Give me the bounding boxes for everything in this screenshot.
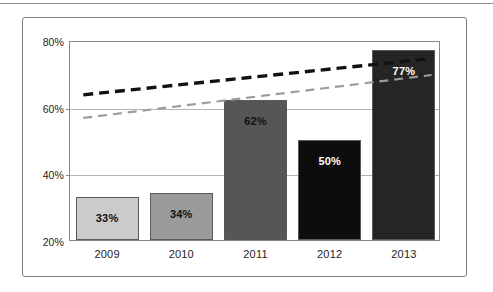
y-axis-tick-mark [66,109,70,110]
y-axis-tick-mark [66,175,70,176]
bar-2012: 50% [298,140,361,240]
plot-area: 20%40%60%80% 33%34%62%50%77% 20092010201… [69,41,440,241]
y-axis-tick-label: 60% [43,103,64,115]
bar-value-label-2013: 77% [373,65,434,77]
bar-value-label-2011: 62% [225,115,286,127]
bar-2009: 33% [76,197,139,240]
x-axis-tick-label-2011: 2011 [218,248,292,260]
bar-2013: 77% [372,50,435,240]
bar-2010: 34% [150,193,213,240]
x-axis-tick-label-2010: 2010 [144,248,218,260]
bar-value-label-2009: 33% [77,212,138,224]
bar-value-label-2012: 50% [299,155,360,167]
y-axis-tick-label: 20% [43,236,64,248]
y-axis-tick-label: 40% [43,169,64,181]
bar-chart: 20%40%60%80% 33%34%62%50%77% 20092010201… [23,18,468,278]
x-axis-tick-label-2013: 2013 [367,248,441,260]
top-horizontal-rule [0,3,493,4]
y-axis-tick-label: 80% [43,36,64,48]
x-axis-tick-label-2012: 2012 [293,248,367,260]
bar-value-label-2010: 34% [151,208,212,220]
chart-frame: 20%40%60%80% 33%34%62%50%77% 20092010201… [22,17,467,277]
bar-2011: 62% [224,100,287,240]
x-axis-tick-label-2009: 2009 [70,248,144,260]
